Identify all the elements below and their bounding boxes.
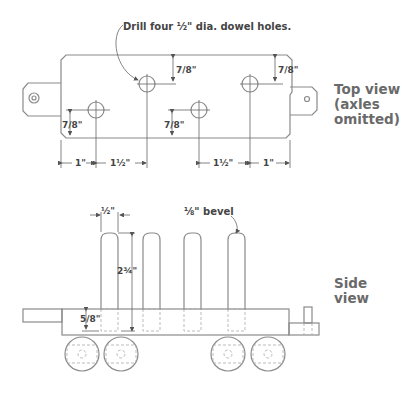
dim-left-end: 1"	[75, 158, 86, 168]
dim-right-spacing: 1½"	[213, 158, 233, 168]
wheel-2	[104, 337, 138, 371]
dim-hole-offset-1: 7/8"	[176, 65, 197, 75]
plan-drawing: Drill four ½" dia. dowel holes. 7/8" 7/8…	[0, 0, 402, 393]
top-view-label-line1: Top view	[334, 82, 400, 97]
front-coupler	[23, 309, 62, 322]
dim-left-spacing: 1½"	[110, 158, 130, 168]
dim-right-end: 1"	[263, 158, 274, 168]
dim-hole-depth: 5/8"	[80, 314, 101, 324]
dowel-3	[184, 233, 201, 310]
top-view-label: Top view (axles omitted)	[334, 82, 400, 127]
dim-hole-offset-4: 7/8"	[164, 120, 185, 130]
dim-hole-offset-2: 7/8"	[278, 65, 299, 75]
top-view-label-line3: omitted)	[334, 112, 400, 127]
dim-dowel-dia: ½"	[101, 206, 115, 216]
drill-callout: Drill four ½" dia. dowel holes.	[123, 21, 291, 32]
dowel-2	[143, 233, 160, 310]
side-view-label: Side view	[334, 276, 402, 306]
wheel-4	[251, 337, 285, 371]
dowel-4	[228, 233, 245, 310]
rear-peg	[304, 307, 312, 323]
bevel-callout: ⅛" bevel	[184, 206, 234, 217]
wheel-3	[211, 337, 245, 371]
right-tab	[290, 87, 317, 115]
right-axle-hole	[305, 97, 310, 102]
top-view-label-line2: (axles	[334, 97, 400, 112]
dowel-1	[101, 233, 118, 310]
dim-hole-offset-3: 7/8"	[62, 120, 83, 130]
left-axle-hole	[29, 93, 39, 103]
dim-dowel-height: 2¾"	[117, 266, 137, 276]
wheel-1	[65, 337, 99, 371]
